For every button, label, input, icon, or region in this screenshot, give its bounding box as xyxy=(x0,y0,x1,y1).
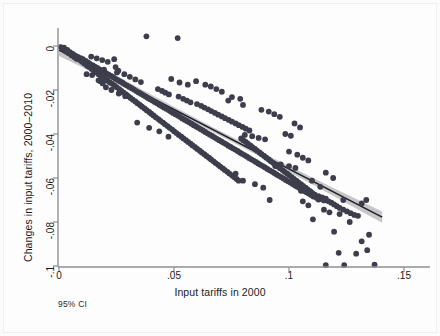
y-tick-label: -.06 xyxy=(45,178,57,218)
plot-axes xyxy=(53,28,430,272)
x-tick-label: .05 xyxy=(154,270,194,281)
y-tick-label: -.02 xyxy=(45,90,57,130)
y-tick-label: 0 xyxy=(45,46,57,86)
y-axis-title: Changes in input tariffs, 2000–2010 xyxy=(22,93,34,262)
y-tick-label: -.08 xyxy=(45,222,57,262)
x-tick-label: .1 xyxy=(269,270,309,281)
x-tick-label: .15 xyxy=(384,270,424,281)
figure-container: Changes in input tariffs, 2000–2010 Inpu… xyxy=(0,0,440,336)
y-tick-label: -.1 xyxy=(45,266,57,306)
ci-note: 95% CI xyxy=(58,299,87,309)
scatter-points xyxy=(58,33,378,268)
y-tick-label: -.04 xyxy=(45,134,57,174)
x-axis-title: Input tariffs in 2000 xyxy=(0,286,440,298)
